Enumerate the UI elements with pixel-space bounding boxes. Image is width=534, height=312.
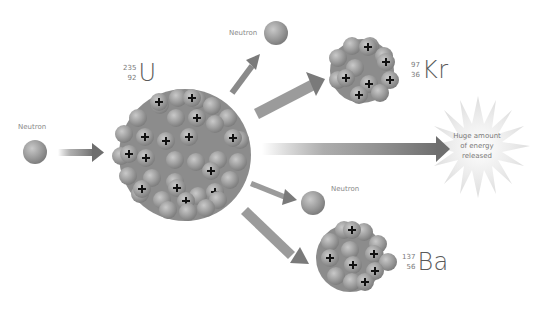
arrow-to-krypton	[254, 72, 325, 119]
arrow-neutron-to-uranium	[58, 143, 104, 162]
uranium-atomic-number: 92	[127, 73, 136, 83]
uranium-label: 23592 U	[123, 59, 156, 87]
barium-mass-number: 137	[402, 252, 415, 262]
uranium-symbol: U	[138, 59, 156, 87]
krypton-atomic-number: 36	[411, 70, 420, 80]
arrow-to-energy	[262, 136, 450, 162]
energy-label-line-1: Huge amount	[452, 131, 502, 141]
arrow-to-barium	[241, 207, 309, 264]
barium-atomic-number: 56	[406, 262, 415, 272]
energy-label: Huge amount of energy released	[452, 131, 502, 161]
emitted-neutron-top-label: Neutron	[229, 29, 257, 37]
krypton-nucleus	[329, 37, 399, 104]
energy-label-line-2: of energy	[452, 141, 502, 151]
krypton-symbol: Kr	[422, 56, 449, 84]
emitted-neutron-bottom-label: Neutron	[331, 185, 359, 193]
energy-label-line-3: released	[452, 151, 502, 161]
emitted-neutron-top	[264, 21, 288, 45]
barium-label: 13756 Ba	[402, 248, 449, 276]
incoming-neutron	[23, 140, 47, 164]
krypton-mass-number: 97	[411, 60, 420, 70]
incoming-neutron-label: Neutron	[18, 123, 46, 131]
emitted-neutron-bottom	[301, 191, 325, 215]
uranium-nucleus	[112, 89, 251, 221]
arrow-to-emitted-neutron-bottom	[250, 181, 297, 205]
barium-nucleus	[316, 221, 397, 292]
uranium-mass-number: 235	[123, 63, 136, 73]
barium-symbol: Ba	[417, 248, 448, 276]
arrow-to-emitted-neutron-top	[232, 54, 260, 93]
krypton-label: 9736 Kr	[411, 56, 449, 84]
